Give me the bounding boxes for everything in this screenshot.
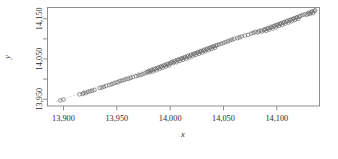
y-axis-title: y (2, 55, 12, 60)
x-axis-ticks: 13,90013,95014,00014,05014,100 (52, 106, 288, 123)
y-tick-label: 14,150 (36, 7, 45, 30)
data-point (313, 8, 317, 12)
x-tick-label: 13,900 (52, 114, 75, 123)
chart-canvas: 13,90013,95014,00014,05014,100 13,95014,… (0, 0, 338, 159)
x-axis-title: x (180, 129, 185, 139)
x-tick-label: 14,000 (159, 114, 182, 123)
x-tick-label: 13,950 (105, 114, 128, 123)
y-tick-label: 13,950 (36, 88, 45, 111)
data-points-group (58, 8, 317, 102)
x-tick-label: 14,050 (212, 114, 235, 123)
y-axis-ticks: 13,95014,05014,150 (36, 7, 48, 110)
y-tick-label: 14,050 (36, 48, 45, 71)
x-tick-label: 14,100 (265, 114, 288, 123)
scatter-plot-figure: 13,90013,95014,00014,05014,100 13,95014,… (0, 0, 338, 159)
